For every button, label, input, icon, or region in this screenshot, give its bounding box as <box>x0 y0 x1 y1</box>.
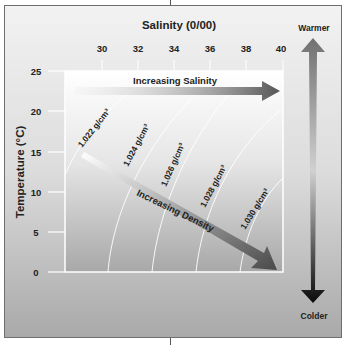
x-tick-32: 32 <box>133 43 144 54</box>
y-axis-title: Temperature (°C) <box>14 126 26 219</box>
y-tick-25: 25 <box>31 66 42 77</box>
colder-label: Colder <box>301 311 329 321</box>
x-axis-title: Salinity (0/00) <box>142 19 216 31</box>
x-tick-36: 36 <box>205 43 216 54</box>
x-tick-38: 38 <box>241 43 252 54</box>
y-tick-20: 20 <box>31 106 42 117</box>
increasing-salinity-label: Increasing Salinity <box>133 75 218 86</box>
x-tick-30: 30 <box>97 43 108 54</box>
y-tick-5: 5 <box>33 227 39 238</box>
temperature-arrow <box>301 38 325 303</box>
y-tick-10: 10 <box>31 187 42 198</box>
warmer-label: Warmer <box>298 23 330 33</box>
y-tick-15: 15 <box>31 147 42 158</box>
x-tick-34: 34 <box>169 43 180 54</box>
y-axis <box>48 71 65 272</box>
y-tick-0: 0 <box>33 267 38 278</box>
x-axis <box>102 60 283 71</box>
ts-diagram: Salinity (0/00) 30 32 34 36 38 40 25 20 … <box>0 0 346 345</box>
x-tick-40: 40 <box>276 43 287 54</box>
